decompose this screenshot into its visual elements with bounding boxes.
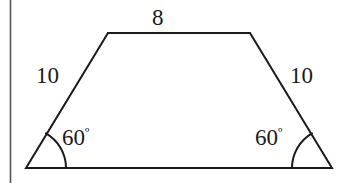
trapezoid-drawing [0, 0, 345, 191]
angle-label-bottom-left-value: 60 [62, 125, 85, 150]
side-label-right-leg: 10 [290, 64, 313, 87]
degree-symbol-icon-left: º [85, 126, 89, 141]
geometry-figure: 8 10 10 60º 60º [0, 0, 345, 191]
side-label-left-leg: 10 [36, 64, 59, 87]
angle-label-bottom-left: 60º [62, 126, 89, 149]
angle-label-bottom-right: 60º [255, 126, 282, 149]
side-label-top: 8 [152, 6, 164, 29]
degree-symbol-icon-right: º [278, 126, 282, 141]
angle-label-bottom-right-value: 60 [255, 125, 278, 150]
